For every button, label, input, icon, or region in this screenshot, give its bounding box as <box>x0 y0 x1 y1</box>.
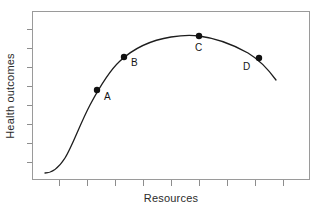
chart-figure: A B C D Resources Health outcomes <box>0 0 326 214</box>
data-point-label-b: B <box>131 58 138 68</box>
data-point-label-d: D <box>243 62 250 72</box>
data-point-label-a: A <box>104 92 111 102</box>
y-axis-label: Health outcomes <box>4 53 16 139</box>
x-axis-label: Resources <box>32 192 310 204</box>
y-axis-label-wrap: Health outcomes <box>0 11 20 180</box>
data-point-label-c: C <box>195 43 202 53</box>
plot-area-frame <box>32 11 310 180</box>
x-axis-ticks <box>59 180 283 186</box>
